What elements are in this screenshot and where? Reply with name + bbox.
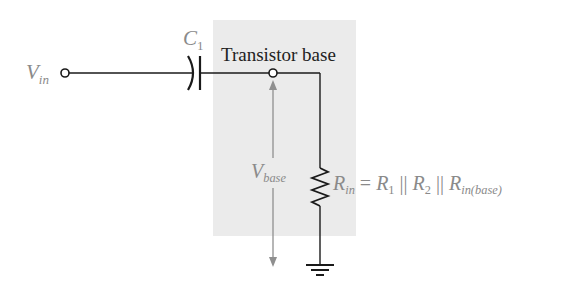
r1-main: R <box>376 172 388 194</box>
vin-terminal <box>61 69 69 77</box>
node-label: Transistor base <box>221 44 336 66</box>
equals-sign: = <box>355 172 376 194</box>
vbase-label: Vbase <box>251 160 286 186</box>
c1-label-main: C <box>183 26 197 50</box>
circuit-svg <box>0 0 562 284</box>
ground-icon <box>306 265 334 275</box>
r2-main: R <box>413 172 425 194</box>
vin-label: Vin <box>26 60 49 88</box>
rin-equation: Rin = R1 || R2 || Rin(base) <box>333 172 502 198</box>
rin-sub: in <box>345 183 355 197</box>
c1-label: C1 <box>183 26 204 54</box>
c1-label-sub: 1 <box>197 38 204 53</box>
parallel-op-2: || <box>431 172 449 194</box>
circuit-diagram: Vin C1 Transistor base Vbase Rin = R1 ||… <box>0 0 562 284</box>
vbase-label-main: V <box>251 160 263 182</box>
vin-label-sub: in <box>39 72 49 87</box>
vin-label-main: V <box>26 60 39 84</box>
rinbase-main: R <box>449 172 461 194</box>
base-node <box>269 69 277 77</box>
rinbase-sub: in(base) <box>461 183 502 197</box>
vbase-label-sub: base <box>263 171 286 185</box>
rin-main: R <box>333 172 345 194</box>
parallel-op-1: || <box>395 172 413 194</box>
